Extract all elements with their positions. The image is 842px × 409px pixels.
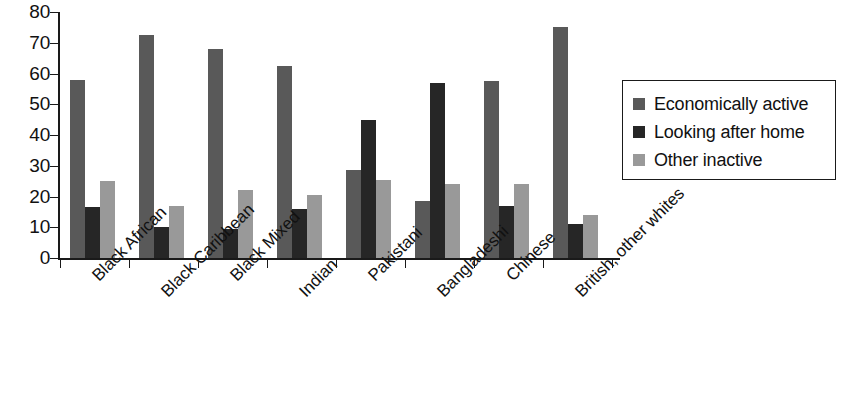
y-tick-mark — [50, 104, 58, 105]
y-tick-label: 40 — [6, 125, 50, 144]
bar[interactable] — [154, 227, 169, 258]
x-tick-mark — [405, 259, 406, 268]
bar[interactable] — [346, 170, 361, 258]
bar[interactable] — [583, 215, 598, 258]
bar-group — [70, 12, 115, 258]
bar-group — [553, 12, 598, 258]
legend-swatch-icon — [633, 98, 645, 110]
x-tick-mark — [336, 259, 337, 268]
bar[interactable] — [70, 80, 85, 258]
y-tick-label: 50 — [6, 94, 50, 113]
y-tick-mark — [50, 135, 58, 136]
bar[interactable] — [445, 184, 460, 258]
legend-label: Economically active — [654, 95, 808, 113]
legend-swatch-icon — [633, 126, 645, 138]
legend-label: Looking after home — [654, 123, 805, 141]
x-tick-mark — [198, 259, 199, 268]
legend-swatch-icon — [633, 154, 645, 166]
y-tick-mark — [50, 43, 58, 44]
y-tick-label: 20 — [6, 187, 50, 206]
bar-group — [484, 12, 529, 258]
bar[interactable] — [169, 206, 184, 258]
bar[interactable] — [430, 83, 445, 258]
x-tick-mark — [129, 259, 130, 268]
y-tick-label: 60 — [6, 64, 50, 83]
chart-legend: Economically active Looking after home O… — [622, 80, 836, 180]
y-tick-label: 80 — [6, 2, 50, 21]
bar[interactable] — [361, 120, 376, 258]
y-tick-mark — [50, 12, 58, 13]
x-tick-mark — [612, 259, 613, 268]
bar-group — [415, 12, 460, 258]
bar[interactable] — [553, 27, 568, 258]
y-tick-label: 0 — [6, 248, 50, 267]
x-tick-mark — [267, 259, 268, 268]
legend-item-other-inactive[interactable]: Other inactive — [633, 146, 835, 174]
y-tick-label: 30 — [6, 156, 50, 175]
y-tick-mark — [50, 197, 58, 198]
bar-chart: 80706050403020100 Black AfricanBlack Car… — [0, 0, 842, 409]
y-tick-label: 70 — [6, 33, 50, 52]
y-axis-labels: 80706050403020100 — [0, 0, 50, 280]
x-tick-mark — [60, 259, 61, 268]
x-tick-mark — [474, 259, 475, 268]
bar-group — [346, 12, 391, 258]
legend-item-economically-active[interactable]: Economically active — [633, 90, 835, 118]
x-category-label: Indian — [296, 256, 341, 301]
y-tick-mark — [50, 258, 58, 259]
bar[interactable] — [307, 195, 322, 258]
x-tick-mark — [543, 259, 544, 268]
y-tick-mark — [50, 227, 58, 228]
y-tick-mark — [50, 166, 58, 167]
y-tick-mark — [50, 74, 58, 75]
legend-item-looking-after-home[interactable]: Looking after home — [633, 118, 835, 146]
y-tick-label: 10 — [6, 217, 50, 236]
legend-label: Other inactive — [654, 151, 762, 169]
bar[interactable] — [568, 224, 583, 258]
bar[interactable] — [85, 207, 100, 258]
